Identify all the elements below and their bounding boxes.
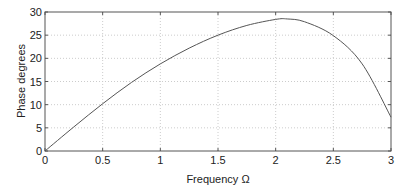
x-axis-label: Frequency Ω xyxy=(186,173,249,185)
y-tick-label: 30 xyxy=(30,6,42,18)
x-tick-label: 3 xyxy=(388,154,394,166)
x-tick-label: 0 xyxy=(42,154,48,166)
y-tick-label: 15 xyxy=(30,76,42,88)
x-tick-label: 2 xyxy=(273,154,279,166)
y-tick-label: 0 xyxy=(36,145,42,157)
phase-chart: 00.511.522.53051015202530 Frequency Ω Ph… xyxy=(0,0,409,189)
x-tick-label: 1.5 xyxy=(210,154,225,166)
axis-ticks: 00.511.522.53051015202530 xyxy=(30,6,394,166)
x-tick-label: 0.5 xyxy=(95,154,110,166)
y-tick-label: 10 xyxy=(30,99,42,111)
y-axis-label: Phase degrees xyxy=(15,44,27,118)
y-tick-label: 5 xyxy=(36,122,42,134)
x-tick-label: 2.5 xyxy=(326,154,341,166)
y-tick-label: 25 xyxy=(30,29,42,41)
x-tick-label: 1 xyxy=(157,154,163,166)
grid-lines xyxy=(45,12,391,151)
y-tick-label: 20 xyxy=(30,52,42,64)
